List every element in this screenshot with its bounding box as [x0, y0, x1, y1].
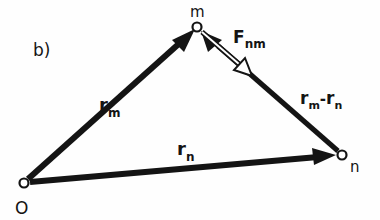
- label-f-nm: Fnm: [233, 27, 266, 51]
- panel-label: b): [33, 40, 50, 60]
- label-r-n: rn: [177, 138, 194, 164]
- point-origin: [20, 179, 29, 188]
- point-m-label: m: [190, 3, 205, 21]
- vector-r-m: [28, 29, 195, 179]
- point-origin-label: O: [15, 198, 28, 218]
- arrowhead-icon: [312, 148, 336, 165]
- point-n-label: n: [350, 158, 360, 176]
- point-m: [193, 23, 202, 32]
- vector-diagram: b) m n O rm rn rm-rn Fnm: [0, 0, 380, 220]
- point-n: [338, 151, 347, 160]
- label-r-m-minus-r-n: rm-rn: [300, 88, 342, 112]
- diagram-canvas: b) m n O rm rn rm-rn Fnm: [0, 0, 380, 220]
